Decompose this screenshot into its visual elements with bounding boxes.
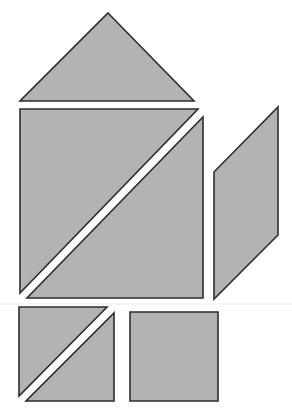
diagram-canvas [0,0,292,408]
top-triangle-piece [20,13,194,101]
tangram-diagram [0,0,292,408]
pieces-group [19,13,278,401]
square-piece [130,312,218,401]
parallelogram-piece [214,107,278,299]
